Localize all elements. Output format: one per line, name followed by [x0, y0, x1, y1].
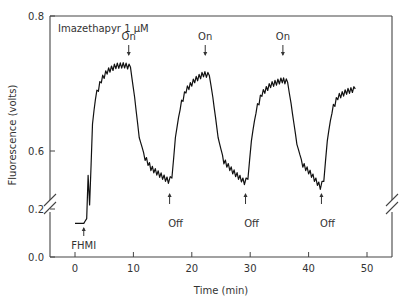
off-label: Off	[168, 218, 184, 229]
up-arrow-icon	[319, 193, 323, 197]
y-tick-label: 0.2	[28, 204, 44, 215]
y-axis-ticks: 0.00.20.60.8	[28, 11, 55, 263]
fhmi-label: FHMI	[71, 240, 96, 251]
up-arrow-icon	[168, 193, 172, 197]
x-axis-label: Time (min)	[193, 285, 248, 296]
x-tick-label: 50	[361, 263, 374, 274]
y-tick-label: 0.0	[28, 252, 44, 263]
x-tick-label: 20	[185, 263, 198, 274]
down-arrow-icon	[203, 52, 207, 56]
fluorescence-chart: 0.00.20.60.8 01020304050 Fluorescence (v…	[0, 0, 405, 302]
y-tick-label: 0.6	[28, 146, 44, 157]
y-axis-label: Fluorescence (volts)	[7, 85, 18, 186]
down-arrow-icon	[281, 52, 285, 56]
x-tick-label: 40	[302, 263, 315, 274]
fluorescence-trace	[75, 63, 355, 224]
y-tick-label: 0.8	[28, 11, 44, 22]
plot-frame	[50, 16, 392, 257]
off-label: Off	[320, 218, 336, 229]
x-tick-label: 10	[127, 263, 140, 274]
off-label: Off	[244, 218, 260, 229]
down-arrow-icon	[127, 52, 131, 56]
on-label: On	[198, 31, 212, 42]
x-tick-label: 30	[244, 263, 257, 274]
axis-break-marks	[44, 194, 398, 214]
up-arrow-icon	[244, 193, 248, 197]
x-axis-ticks: 01020304050	[72, 252, 374, 274]
up-arrow-icon	[82, 227, 86, 231]
on-label: On	[122, 31, 136, 42]
x-tick-label: 0	[72, 263, 78, 274]
on-label: On	[276, 31, 290, 42]
